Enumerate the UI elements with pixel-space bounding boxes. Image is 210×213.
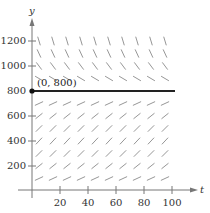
x-axis-label: t (200, 184, 205, 195)
slope-segment (64, 113, 71, 119)
slope-segment (91, 76, 99, 81)
slope-segment (63, 177, 71, 181)
y-tick-label: 1000 (1, 60, 26, 71)
initial-point-label: (0, 800) (37, 77, 77, 88)
slope-segment (162, 113, 169, 119)
slope-segment (77, 76, 85, 81)
slope-segment (77, 102, 85, 106)
slope-segment (108, 37, 111, 46)
slope-segment (133, 177, 141, 181)
y-tick-label: 1200 (1, 35, 26, 46)
slope-segment (147, 76, 155, 81)
slope-segment (148, 138, 154, 145)
slope-segment (64, 125, 70, 131)
slope-segment (92, 150, 98, 156)
slope-segment (134, 163, 141, 169)
slope-segment (49, 177, 57, 181)
slope-segment (38, 37, 41, 46)
slope-segment (78, 125, 84, 131)
slope-segment (78, 62, 83, 69)
slope-segment (134, 62, 139, 69)
slope-segment (36, 125, 42, 131)
slope-segment (150, 37, 153, 46)
x-tick-label: 40 (82, 197, 95, 208)
slope-segment (64, 62, 69, 69)
slope-segment (120, 163, 127, 169)
slope-segment (120, 62, 125, 69)
x-axis-arrow-icon (190, 188, 198, 193)
slope-segment (78, 150, 84, 156)
x-tick-label: 60 (110, 197, 123, 208)
slope-segment (65, 49, 69, 57)
slope-segment (52, 37, 55, 46)
slope-field (35, 37, 169, 181)
slope-segment (162, 138, 168, 145)
slope-segment (92, 163, 99, 169)
slope-segment (134, 113, 141, 119)
slope-segment (161, 102, 169, 106)
slope-segment (36, 113, 43, 119)
slope-segment (78, 163, 85, 169)
slope-segment (92, 113, 99, 119)
slope-segment (147, 102, 155, 106)
y-ticks: 200 400 600 800 1000 1200 (1, 35, 36, 171)
slope-segment (36, 138, 42, 145)
slope-segment (119, 102, 127, 106)
slope-segment (133, 102, 141, 106)
slope-segment (161, 76, 169, 81)
slope-segment (92, 62, 97, 69)
y-axis-label: y (28, 5, 35, 16)
x-tick-label: 80 (138, 197, 151, 208)
slope-segment (94, 37, 97, 46)
slope-segment (91, 102, 99, 106)
slope-segment (120, 150, 126, 156)
slope-segment (50, 62, 55, 69)
slope-segment (105, 102, 113, 106)
slope-segment (36, 62, 41, 69)
slope-segment (148, 113, 155, 119)
slope-segment (51, 49, 55, 57)
slope-segment (133, 76, 141, 81)
y-tick-label: 800 (7, 85, 26, 96)
slope-segment (77, 177, 85, 181)
slope-segment (107, 49, 111, 57)
slope-segment (121, 49, 125, 57)
x-tick-label: 20 (54, 197, 67, 208)
slope-segment (135, 49, 139, 57)
slope-segment (147, 177, 155, 181)
y-tick-label: 400 (7, 135, 26, 146)
slope-segment (162, 62, 167, 69)
slope-segment (148, 150, 154, 156)
slope-segment (106, 138, 112, 145)
slope-segment (79, 49, 83, 57)
slope-segment (106, 62, 111, 69)
slope-field-chart: y t 20 40 60 80 100 200 400 600 800 1000… (0, 0, 210, 213)
slope-segment (92, 125, 98, 131)
slope-segment (134, 125, 140, 131)
slope-segment (78, 138, 84, 145)
slope-segment (37, 49, 41, 57)
slope-segment (80, 37, 83, 46)
slope-segment (162, 163, 169, 169)
slope-segment (162, 125, 168, 131)
slope-segment (64, 163, 71, 169)
slope-segment (106, 125, 112, 131)
initial-point-marker (29, 88, 34, 93)
slope-segment (149, 49, 153, 57)
x-ticks: 20 40 60 80 100 (54, 186, 182, 208)
slope-segment (50, 163, 57, 169)
slope-segment (148, 62, 153, 69)
slope-segment (134, 138, 140, 145)
slope-segment (119, 177, 127, 181)
slope-segment (134, 150, 140, 156)
slope-segment (120, 113, 127, 119)
slope-segment (106, 163, 113, 169)
slope-segment (64, 150, 70, 156)
slope-segment (36, 150, 42, 156)
slope-segment (49, 102, 57, 106)
y-axis-arrow-icon (30, 18, 35, 26)
slope-segment (93, 49, 97, 57)
slope-segment (105, 76, 113, 81)
slope-segment (122, 37, 125, 46)
slope-segment (119, 76, 127, 81)
